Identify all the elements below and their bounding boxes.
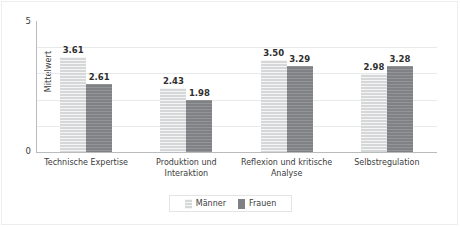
x-category-label-line: Analyse (228, 168, 346, 179)
dark-swatch-icon (238, 199, 245, 209)
legend-item-maenner[interactable]: Männer (185, 199, 226, 209)
bar-frauen[interactable] (186, 100, 212, 152)
bar-frauen[interactable] (86, 84, 112, 152)
gridline (36, 47, 437, 48)
y-tick-bottom: 0 (2, 147, 31, 156)
y-tick-top: 5 (2, 17, 31, 26)
y-axis-title: Mittelwert (44, 22, 53, 122)
x-category-label: Selbstregulation (328, 157, 446, 168)
bar-value-label: 3.29 (280, 55, 320, 64)
bar-maenner[interactable] (261, 60, 287, 152)
bar-value-label: 2.43 (153, 77, 193, 86)
bar-frauen[interactable] (387, 66, 413, 152)
bar-frauen[interactable] (287, 66, 313, 152)
y-axis-line (36, 21, 37, 152)
bar-value-label: 3.61 (53, 46, 93, 55)
x-category-label-line: Selbstregulation (328, 157, 446, 168)
light-swatch-icon (185, 199, 192, 209)
bar-value-label: 3.28 (380, 55, 420, 64)
legend-item-frauen[interactable]: Frauen (238, 199, 276, 209)
legend-label-frauen: Frauen (249, 199, 276, 208)
bar-maenner[interactable] (361, 74, 387, 152)
legend: Männer Frauen (169, 195, 292, 212)
bar-chart-figure: Mittelwert 3.612.612.431.983.503.292.983… (0, 0, 460, 227)
bar-maenner[interactable] (60, 57, 86, 152)
legend-label-maenner: Männer (196, 199, 226, 208)
x-axis-line (36, 152, 437, 153)
plot-area: Mittelwert 3.612.612.431.983.503.292.983… (36, 21, 437, 152)
bar-value-label: 1.98 (179, 89, 219, 98)
bar-value-label: 2.61 (79, 73, 119, 82)
